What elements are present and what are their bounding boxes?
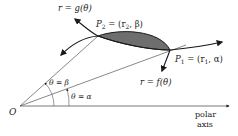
label-g-curve: r = g(θ) (58, 3, 92, 13)
label-f-curve: r = f(θ) (140, 77, 172, 87)
polar-area-diagram: r = g(θ) P2 = (r2, β) P1 = (r1, α) r = f… (0, 0, 238, 136)
label-polar-axis-2: axis (197, 120, 213, 129)
label-p2: P2 = (r2, β) (95, 19, 143, 30)
label-polar-axis-1: polar (195, 110, 216, 119)
angle-arc-alpha (67, 89, 69, 106)
shaded-region (98, 32, 170, 50)
label-theta-beta: θ = β (49, 78, 70, 87)
label-theta-alpha: θ = α (71, 92, 92, 101)
label-origin: O (9, 107, 17, 117)
ray-theta-alpha (20, 45, 186, 106)
label-p1: P1 = (r1, α) (174, 54, 223, 65)
